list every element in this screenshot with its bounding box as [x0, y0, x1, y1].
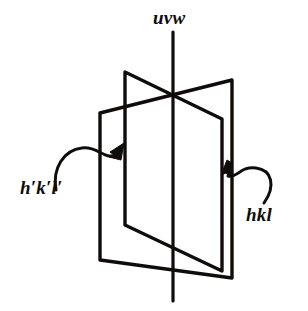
diagram-canvas: [0, 0, 308, 311]
plane-label-hkl: hkl: [246, 205, 272, 224]
crystal-plane-diagram: uvw h′k′l′ hkl: [0, 0, 308, 311]
arrow-left-icon: [109, 143, 124, 160]
pointer-curve-left: [55, 148, 116, 190]
plane-hkl-outline: [100, 80, 232, 278]
plane-label-hkl-primed: h′k′l′: [20, 178, 63, 197]
pointer-curve-right: [228, 168, 271, 203]
zone-axis-label: uvw: [153, 8, 185, 27]
